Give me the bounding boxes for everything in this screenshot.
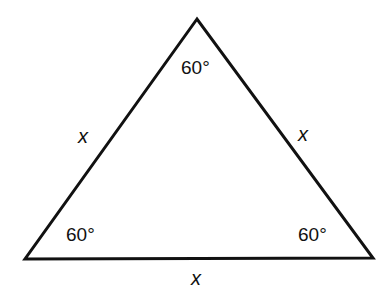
triangle-diagram: 60° 60° 60° x x x [0,0,386,298]
side-label-right: x [298,124,308,144]
triangle-shape [0,0,386,298]
angle-label-bottom-left: 60° [66,225,95,244]
side-label-bottom: x [191,268,201,288]
angle-label-top: 60° [181,58,210,77]
angle-label-bottom-right: 60° [298,225,327,244]
side-label-left: x [78,126,88,146]
